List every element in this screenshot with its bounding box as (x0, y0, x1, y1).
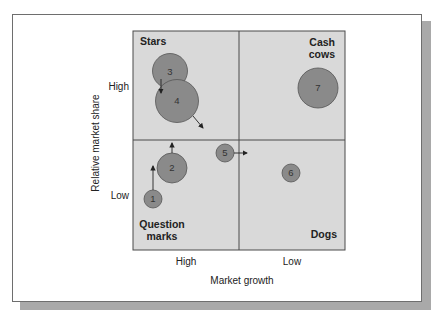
bcg-matrix: Stars Cash cows Question marks Dogs 3 4 … (0, 0, 441, 320)
bubble-6: 6 (282, 164, 300, 182)
quadrant-label-marks: marks (147, 230, 178, 242)
svg-text:6: 6 (288, 167, 293, 178)
x-tick-high: High (176, 256, 197, 267)
bubble-5: 5 (216, 144, 234, 162)
bubble-2: 2 (157, 153, 187, 183)
svg-text:4: 4 (174, 95, 179, 106)
y-tick-high: High (108, 81, 129, 92)
quadrant-label-question: Question (139, 218, 185, 230)
bubble-7: 7 (298, 68, 338, 108)
svg-text:2: 2 (169, 162, 174, 173)
svg-text:1: 1 (150, 193, 155, 204)
quadrant-label-cash: Cash (309, 36, 335, 48)
y-axis-title: Relative market share (90, 94, 101, 192)
quadrant-label-dogs: Dogs (311, 228, 337, 240)
bubble-1: 1 (144, 190, 162, 208)
svg-text:7: 7 (315, 82, 320, 93)
x-tick-low: Low (283, 256, 302, 267)
quadrant-label-cows: cows (309, 48, 335, 60)
quadrant-label-stars: Stars (140, 35, 166, 47)
x-axis-title: Market growth (210, 275, 273, 286)
bubble-4: 4 (156, 80, 199, 123)
y-tick-low: Low (111, 190, 130, 201)
svg-text:3: 3 (167, 66, 172, 77)
svg-text:5: 5 (222, 147, 227, 158)
